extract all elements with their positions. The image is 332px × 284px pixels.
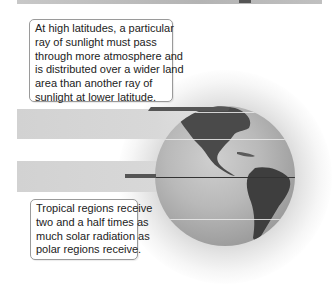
callout-text-line: through more atmosphere and — [35, 50, 168, 64]
callout-text-line: ray of sunlight must pass — [35, 36, 168, 50]
latitude-line — [155, 219, 295, 220]
earth-globe — [155, 106, 295, 246]
callout-text-line: polar regions receive. — [36, 243, 133, 257]
equator-line — [155, 177, 295, 178]
callout-text-line: sunlight at lower latitude. — [35, 91, 168, 105]
callout-text-line: At high latitudes, a particular — [35, 22, 168, 36]
callout-text-line: Tropical regions receive — [36, 202, 133, 216]
callout-tropical: Tropical regions receive two and a half … — [30, 199, 138, 260]
callout-text-line: much solar radiation as — [36, 230, 133, 244]
callout-text-line: area than another ray of — [35, 77, 168, 91]
latitude-line — [155, 139, 295, 140]
latitude-line — [155, 112, 295, 113]
americas-landmass-icon — [155, 106, 295, 246]
callout-text-line: two and a half times as — [36, 216, 133, 230]
sunlight-ray-high-latitude — [148, 107, 231, 111]
callout-text-line: is distributed over a wider land — [35, 63, 168, 77]
header-title-fragment — [239, 0, 251, 3]
header-bar — [17, 0, 322, 4]
sunlight-ray-low-latitude — [125, 174, 156, 178]
callout-high-latitude: At high latitudes, a particular ray of s… — [29, 19, 173, 102]
